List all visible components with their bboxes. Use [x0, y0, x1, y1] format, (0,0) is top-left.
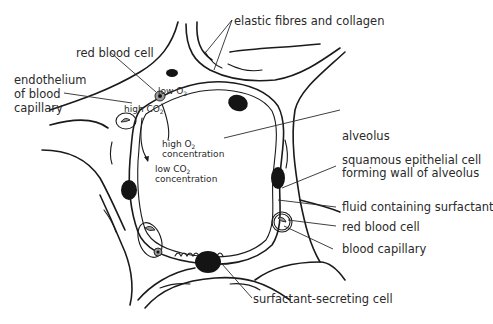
- label-low-o2: low O2: [158, 86, 187, 97]
- label-elastic-fibres: elastic fibres and collagen: [234, 14, 384, 28]
- label-low-co2-concentration: concentration: [155, 174, 217, 184]
- label-fluid-surfactant: fluid containing surfactant: [342, 200, 493, 214]
- label-squamous-2: forming wall of alveolus: [342, 166, 479, 180]
- nucleus-right: [271, 167, 285, 189]
- label-red-blood-cell-right: red blood cell: [342, 220, 420, 234]
- label-endothelium-2: of blood: [14, 87, 61, 101]
- nucleus-left: [121, 180, 137, 200]
- label-squamous-1: squamous epithelial cell: [342, 153, 481, 167]
- label-high-o2-concentration: concentration: [162, 149, 224, 159]
- label-endothelium-1: endothelium: [14, 73, 86, 87]
- label-blood-capillary: blood capillary: [342, 242, 427, 256]
- nucleus-top-left: [166, 69, 178, 77]
- connective-tissue: [42, 22, 345, 308]
- label-alveolus: alveolus: [342, 129, 390, 143]
- label-red-blood-cell-top: red blood cell: [76, 46, 154, 60]
- nucleus-surfactant-cell: [195, 251, 221, 273]
- alveolus-diagram: elastic fibres and collagen red blood ce…: [0, 0, 493, 324]
- label-surfactant-secreting-cell: surfactant-secreting cell: [253, 292, 393, 306]
- label-endothelium-3: capillary: [14, 101, 63, 115]
- blood-capillary-right: [272, 212, 292, 232]
- nucleus-top: [226, 92, 250, 114]
- label-high-co2: high CO2: [124, 104, 164, 115]
- labels: elastic fibres and collagen red blood ce…: [14, 14, 493, 306]
